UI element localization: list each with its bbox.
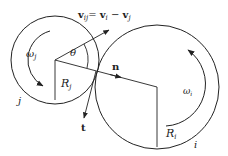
tangent-label: t	[81, 122, 86, 133]
tangent-arrow-icon	[84, 71, 96, 118]
particle-j-label: j	[16, 95, 21, 106]
normal-label: n	[112, 61, 120, 72]
radius-j-label: Rj	[60, 77, 72, 91]
relative-velocity-arrow-icon	[55, 30, 109, 60]
contact-diagram: vij= vi − vj θ n t ωj ωi Rj Ri j i	[0, 0, 228, 156]
normal-arrow-icon	[110, 75, 121, 78]
omega-i-label: ωi	[183, 86, 192, 97]
theta-arc	[84, 44, 88, 68]
particle-i-label: i	[194, 139, 197, 150]
relative-velocity-label: vij= vi − vj	[77, 9, 131, 22]
radius-i-label: Ri	[165, 127, 177, 141]
theta-label: θ	[70, 47, 76, 58]
